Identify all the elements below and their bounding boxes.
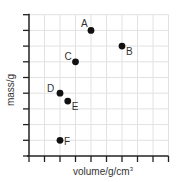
x-axis-label: volume/g/cm3 <box>73 166 134 177</box>
data-point-a <box>88 27 95 34</box>
data-point-e <box>64 98 71 105</box>
data-point-b <box>119 43 126 50</box>
scatter-chart: ABCDEF volume/g/cm3 mass/g <box>0 0 177 182</box>
data-point-f <box>57 137 64 144</box>
point-label-c: C <box>65 51 72 62</box>
point-label-d: D <box>47 83 54 94</box>
data-point-d <box>57 90 64 97</box>
point-label-f: F <box>64 136 70 147</box>
data-point-c <box>72 58 79 65</box>
y-axis-label: mass/g <box>5 74 16 106</box>
point-label-b: B <box>126 46 133 57</box>
point-label-e: E <box>72 101 79 112</box>
point-label-a: A <box>81 18 88 29</box>
